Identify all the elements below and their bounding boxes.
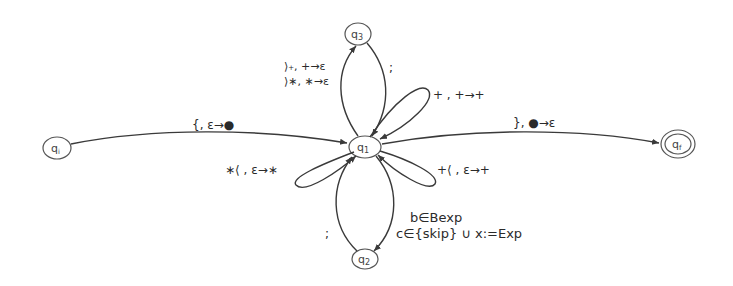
automaton-diagram: qi q1 q3 q2 qf	[0, 0, 733, 286]
state-qi-label: qi	[51, 142, 60, 156]
edge-qi-q1	[71, 132, 347, 144]
state-q3-label: q3	[351, 28, 363, 42]
edge-label-q1-q3-plus: ⟩₊, +→ε	[284, 60, 325, 73]
loop-plus	[370, 88, 429, 139]
loop-star-open	[295, 152, 356, 187]
edge-q3-q1	[367, 43, 386, 136]
edge-label-q3-q1: ;	[389, 61, 393, 75]
edge-label-q1-q2-b: b∈Bexp	[410, 210, 462, 225]
loop-label-plus-open: +⟨ , ε→+	[437, 163, 490, 177]
state-q2-label: q2	[358, 253, 370, 267]
state-qf-label: qf	[672, 138, 682, 152]
edge-label-q1-q2-c: c∈{skip} ∪ x:=Exp	[396, 226, 522, 241]
edge-q2-q1	[336, 157, 357, 251]
loop-label-plus: + , +→+	[433, 88, 485, 102]
edge-q1-q2	[374, 156, 394, 251]
edge-label-qi-q1: {, ε→●	[192, 118, 234, 132]
edge-label-q2-q1: ;	[325, 227, 329, 241]
loop-label-star-open: ∗⟨ , ε→∗	[225, 163, 278, 177]
edge-label-q1-qf: }, ●→ε	[513, 116, 555, 130]
loop-plus-open	[378, 151, 436, 186]
edge-q1-q3	[341, 46, 358, 136]
state-q1-label: q1	[357, 141, 369, 155]
edge-label-q1-q3-star: ⟩∗, ∗→ε	[284, 75, 329, 88]
edge-q1-qf	[382, 132, 659, 144]
